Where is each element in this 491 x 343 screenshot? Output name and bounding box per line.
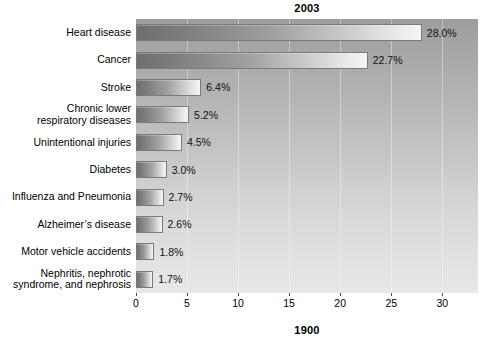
category-label: Heart disease bbox=[0, 19, 131, 46]
bar-row: 3.0% bbox=[136, 156, 478, 183]
category-label: Unintentional injuries bbox=[0, 129, 131, 156]
bar-series: 28.0%22.7%6.4%5.2%4.5%3.0%2.7%2.6%1.8%1.… bbox=[136, 19, 478, 293]
x-tick-mark bbox=[187, 293, 188, 296]
bar-row: 5.2% bbox=[136, 101, 478, 128]
bar-value-label: 28.0% bbox=[427, 27, 457, 39]
category-label-line: respiratory diseases bbox=[37, 115, 131, 127]
bar-row: 6.4% bbox=[136, 74, 478, 101]
bar bbox=[136, 189, 164, 206]
x-tick-label: 15 bbox=[283, 297, 295, 309]
chart-title-top: 2003 bbox=[136, 2, 478, 14]
bar-value-label: 6.4% bbox=[206, 81, 230, 93]
category-label: Cancer bbox=[0, 46, 131, 73]
category-label: Alzheimer’s disease bbox=[0, 211, 131, 238]
category-label-line: Motor vehicle accidents bbox=[21, 246, 131, 258]
category-label-line: Heart disease bbox=[66, 27, 131, 39]
x-tick-mark bbox=[442, 293, 443, 296]
category-label: Motor vehicle accidents bbox=[0, 238, 131, 265]
category-label-line: Alzheimer’s disease bbox=[37, 219, 131, 231]
bar-row: 4.5% bbox=[136, 129, 478, 156]
bar-value-label: 1.8% bbox=[159, 246, 183, 258]
bar-row: 1.8% bbox=[136, 238, 478, 265]
category-label-line: syndrome, and nephrosis bbox=[13, 279, 131, 291]
x-tick-label: 30 bbox=[436, 297, 448, 309]
bar-row: 1.7% bbox=[136, 266, 478, 293]
x-tick-mark bbox=[238, 293, 239, 296]
x-tick-label: 25 bbox=[385, 297, 397, 309]
chart-figure: 2003 28.0%22.7%6.4%5.2%4.5%3.0%2.7%2.6%1… bbox=[0, 0, 491, 343]
x-tick-mark bbox=[136, 293, 137, 296]
bar-row: 22.7% bbox=[136, 46, 478, 73]
bar bbox=[136, 24, 422, 41]
bar bbox=[136, 271, 153, 288]
bar-value-label: 4.5% bbox=[187, 136, 211, 148]
bar bbox=[136, 106, 189, 123]
bar-value-label: 22.7% bbox=[373, 54, 403, 66]
bar-row: 2.6% bbox=[136, 211, 478, 238]
x-tick-mark bbox=[340, 293, 341, 296]
category-axis-labels: Heart diseaseCancerStrokeChronic lowerre… bbox=[0, 19, 131, 293]
x-tick-mark bbox=[391, 293, 392, 296]
bar bbox=[136, 243, 154, 260]
category-label: Diabetes bbox=[0, 156, 131, 183]
category-label-line: Cancer bbox=[97, 54, 131, 66]
bar bbox=[136, 134, 182, 151]
bar bbox=[136, 79, 201, 96]
category-label: Chronic lowerrespiratory diseases bbox=[0, 101, 131, 128]
x-tick-mark bbox=[289, 293, 290, 296]
category-label-line: Diabetes bbox=[90, 164, 131, 176]
bar bbox=[136, 216, 163, 233]
x-axis: 051015202530 bbox=[136, 293, 478, 315]
category-label: Nephritis, nephroticsyndrome, and nephro… bbox=[0, 266, 131, 293]
category-label-line: Stroke bbox=[101, 82, 131, 94]
chart-title-bottom: 1900 bbox=[136, 324, 478, 336]
category-label-line: Unintentional injuries bbox=[34, 137, 131, 149]
bar-value-label: 2.7% bbox=[169, 191, 193, 203]
bar-value-label: 5.2% bbox=[194, 109, 218, 121]
bar-row: 2.7% bbox=[136, 183, 478, 210]
bar-value-label: 3.0% bbox=[172, 164, 196, 176]
category-label: Stroke bbox=[0, 74, 131, 101]
category-label: Influenza and Pneumonia bbox=[0, 183, 131, 210]
x-tick-label: 20 bbox=[334, 297, 346, 309]
bar bbox=[136, 52, 368, 69]
bar-value-label: 1.7% bbox=[158, 273, 182, 285]
bar-value-label: 2.6% bbox=[168, 218, 192, 230]
x-tick-label: 10 bbox=[232, 297, 244, 309]
plot-area: 28.0%22.7%6.4%5.2%4.5%3.0%2.7%2.6%1.8%1.… bbox=[136, 19, 478, 293]
x-tick-label: 0 bbox=[133, 297, 139, 309]
category-label-line: Influenza and Pneumonia bbox=[12, 191, 131, 203]
bar bbox=[136, 161, 167, 178]
x-tick-label: 5 bbox=[184, 297, 190, 309]
bar-row: 28.0% bbox=[136, 19, 478, 46]
